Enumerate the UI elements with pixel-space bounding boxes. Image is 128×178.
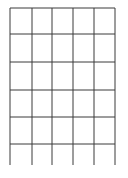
grid-drawing (0, 0, 128, 178)
